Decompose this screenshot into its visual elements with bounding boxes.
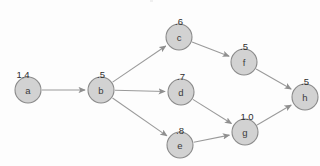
node-label-c: c [177, 32, 182, 43]
node-value-e: .8 [176, 125, 184, 136]
node-label-f: f [243, 57, 246, 68]
edge-e-to-g [194, 135, 230, 142]
node-value-f: .5 [240, 41, 248, 52]
node-f[interactable]: f [231, 49, 257, 75]
edge-b-to-d [115, 90, 165, 91]
edge-b-to-c [113, 46, 166, 82]
graph-svg: abcdefgh 1.4.5.6.7.8.51.0.5 [0, 0, 320, 166]
node-value-c: .6 [175, 16, 183, 27]
node-d[interactable]: d [168, 79, 194, 105]
edge-g-to-h [257, 105, 291, 125]
node-label-e: e [177, 140, 182, 151]
edge-c-to-f [192, 42, 229, 56]
value-labels-layer: 1.4.5.6.7.8.51.0.5 [16, 16, 309, 136]
node-c[interactable]: c [166, 24, 192, 50]
node-a[interactable]: a [15, 77, 41, 103]
node-value-d: .7 [177, 71, 185, 82]
node-value-b: .5 [97, 69, 105, 80]
nodes-layer: abcdefgh [15, 24, 318, 158]
node-value-g: 1.0 [240, 111, 253, 122]
node-label-a: a [25, 85, 31, 96]
node-b[interactable]: b [88, 77, 114, 103]
edge-b-to-e [112, 98, 166, 136]
node-label-h: h [302, 92, 307, 103]
node-g[interactable]: g [232, 119, 258, 145]
edge-d-to-g [193, 99, 232, 123]
node-label-b: b [98, 85, 103, 96]
node-h[interactable]: h [292, 84, 318, 110]
node-value-h: .5 [301, 76, 309, 87]
edge-f-to-h [256, 69, 291, 89]
node-label-g: g [242, 127, 247, 138]
node-value-a: 1.4 [16, 69, 29, 80]
graph-canvas: abcdefgh 1.4.5.6.7.8.51.0.5 [0, 0, 320, 166]
node-label-d: d [178, 87, 183, 98]
